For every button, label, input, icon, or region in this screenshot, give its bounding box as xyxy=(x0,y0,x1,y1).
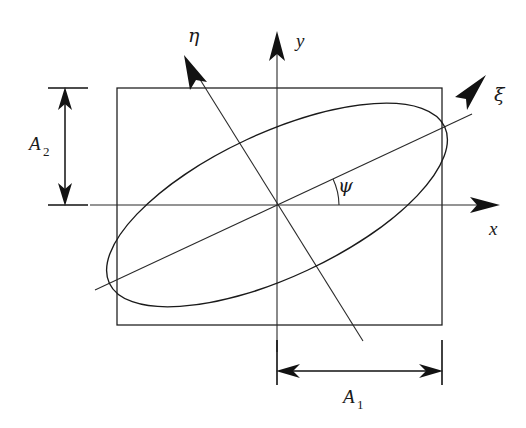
a2-label-group: A 2 xyxy=(27,133,50,159)
figure-canvas: x y ξ η ψ A 2 A 1 xyxy=(0,0,526,428)
a1-label: A xyxy=(341,386,355,407)
a2-label: A xyxy=(27,133,41,154)
xi-axis-label: ξ xyxy=(494,83,506,105)
psi-angle-label: ψ xyxy=(338,174,354,196)
a2-label-subscript: 2 xyxy=(43,144,50,159)
x-axis-label: x xyxy=(488,218,498,239)
xi-axis-arrowhead xyxy=(455,75,486,110)
a1-label-group: A 1 xyxy=(341,386,364,412)
a1-label-subscript: 1 xyxy=(357,397,364,412)
eta-axis-label: η xyxy=(188,24,200,46)
y-axis-label: y xyxy=(294,30,305,51)
xi-axis-line xyxy=(95,114,472,290)
geometry-diagram: x y ξ η ψ A 2 A 1 xyxy=(0,0,526,428)
